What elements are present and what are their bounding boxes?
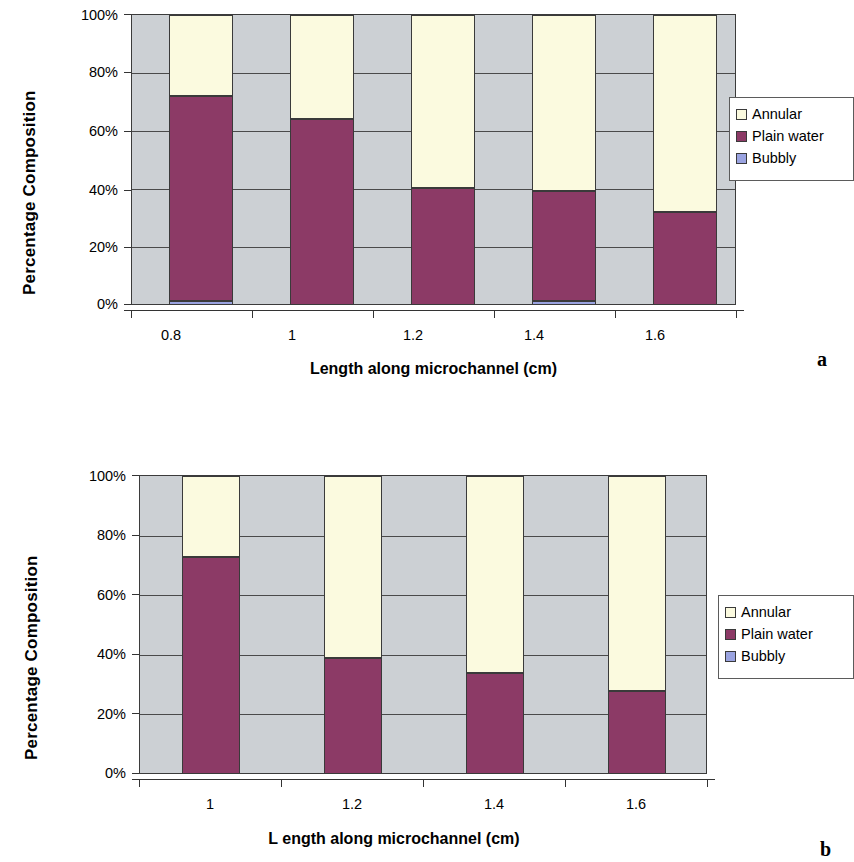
panel-b-x-tick <box>139 779 140 787</box>
legend-label: Annular <box>741 604 791 620</box>
bar-segment-plain-water <box>411 188 475 305</box>
legend-label: Annular <box>752 106 802 122</box>
legend-swatch-annular-icon <box>736 109 747 120</box>
panel-b-x-tick <box>565 779 566 787</box>
panel-a-y-tick-label: 20% <box>58 239 118 255</box>
panel-a-x-tick <box>252 310 253 318</box>
panel-a-x-tick <box>736 310 737 318</box>
panel-b-y-tick-label: 60% <box>66 587 126 603</box>
panel-b-x-tick-label: 1.6 <box>606 796 666 812</box>
stacked-bar-figure: Percentage Composition 100% 80% 60% 40% … <box>0 0 854 862</box>
panel-a-x-tick <box>494 310 495 318</box>
legend-swatch-bubbly-icon <box>736 153 747 164</box>
bar-stack <box>324 476 382 774</box>
bar-segment-annular <box>411 15 475 188</box>
panel-a-y-tick-label: 40% <box>58 182 118 198</box>
panel-a-y-tick-label: 80% <box>58 64 118 80</box>
panel-a-x-tick-label: 1.4 <box>504 327 564 343</box>
panel-b-y-tick-label: 40% <box>66 646 126 662</box>
panel-letter-b: b <box>820 838 831 861</box>
panel-a-x-tick-label: 0.8 <box>141 327 201 343</box>
panel-b-x-axis-title: L ength along microchannel (cm) <box>110 830 678 848</box>
panel-b-x-tick-label: 1.4 <box>464 796 524 812</box>
panel-b-x-tick <box>281 779 282 787</box>
bar-segment-plain-water <box>608 691 666 774</box>
bar-stack <box>608 476 666 774</box>
panel-a-x-tick <box>131 310 132 318</box>
panel-a-x-axis-title: Length along microchannel (cm) <box>131 360 736 378</box>
panel-a-y-tick-label: 100% <box>58 7 118 23</box>
panel-a-x-tick-label: 1 <box>262 327 322 343</box>
legend-item: Plain water <box>725 623 847 645</box>
panel-a-plot-area <box>131 14 736 305</box>
bar-stack <box>411 15 475 305</box>
panel-b-y-tick-label: 0% <box>66 765 126 781</box>
legend-swatch-annular-icon <box>725 607 736 618</box>
panel-b-x-tick-label: 1.2 <box>322 796 382 812</box>
legend-item: Annular <box>725 601 847 623</box>
bar-segment-bubbly <box>169 301 233 305</box>
bar-segment-annular <box>653 15 717 212</box>
bar-segment-plain-water <box>324 658 382 774</box>
panel-a-x-tick <box>373 310 374 318</box>
bar-segment-annular <box>182 476 240 557</box>
panel-b-legend: Annular Plain water Bubbly <box>718 595 854 679</box>
legend-item: Annular <box>736 103 847 125</box>
panel-b-plot-area <box>139 475 707 774</box>
panel-a-y-axis-title: Percentage Composition <box>20 90 40 295</box>
legend-swatch-plain-water-icon <box>725 629 736 640</box>
legend-item: Bubbly <box>725 645 847 667</box>
panel-b-x-tick <box>423 779 424 787</box>
bar-segment-plain-water <box>169 96 233 301</box>
bar-segment-plain-water <box>653 212 717 305</box>
panel-a-x-tick-label: 1.2 <box>383 327 443 343</box>
panel-b-x-tick-label: 1 <box>180 796 240 812</box>
legend-swatch-plain-water-icon <box>736 131 747 142</box>
bar-stack <box>169 15 233 305</box>
bar-segment-plain-water <box>290 119 354 305</box>
bar-stack <box>182 476 240 774</box>
legend-label: Plain water <box>752 128 824 144</box>
bar-segment-plain-water <box>466 673 524 774</box>
legend-swatch-bubbly-icon <box>725 651 736 662</box>
bar-segment-annular <box>290 15 354 119</box>
bar-segment-plain-water <box>532 191 596 301</box>
panel-b: Percentage Composition 100% 80% 60% 40% … <box>0 455 854 862</box>
panel-a-y-tick-label: 60% <box>58 123 118 139</box>
bar-segment-annular <box>532 15 596 191</box>
bar-segment-annular <box>324 476 382 658</box>
panel-b-y-axis-title: Percentage Composition <box>22 555 42 760</box>
panel-a-x-tick <box>615 310 616 318</box>
bar-segment-plain-water <box>182 557 240 775</box>
panel-a-y-tick-label: 0% <box>58 296 118 312</box>
panel-a-x-tick-label: 1.6 <box>625 327 685 343</box>
panel-b-y-tick-label: 100% <box>66 468 126 484</box>
bar-stack <box>532 15 596 305</box>
legend-label: Plain water <box>741 626 813 642</box>
bar-segment-bubbly <box>532 301 596 305</box>
bar-segment-annular <box>169 15 233 96</box>
bar-segment-annular <box>608 476 666 691</box>
bar-segment-annular <box>466 476 524 673</box>
panel-b-y-tick-label: 80% <box>66 527 126 543</box>
bar-stack <box>466 476 524 774</box>
legend-item: Plain water <box>736 125 847 147</box>
legend-label: Bubbly <box>741 648 785 664</box>
panel-a-legend: Annular Plain water Bubbly <box>729 97 854 181</box>
legend-item: Bubbly <box>736 147 847 169</box>
panel-a: Percentage Composition 100% 80% 60% 40% … <box>0 0 854 400</box>
panel-b-x-tick <box>707 779 708 787</box>
panel-b-y-tick-label: 20% <box>66 706 126 722</box>
panel-letter-a: a <box>817 348 827 371</box>
bar-stack <box>290 15 354 305</box>
bar-stack <box>653 15 717 305</box>
panel-a-x-axis <box>124 310 744 311</box>
legend-label: Bubbly <box>752 150 796 166</box>
